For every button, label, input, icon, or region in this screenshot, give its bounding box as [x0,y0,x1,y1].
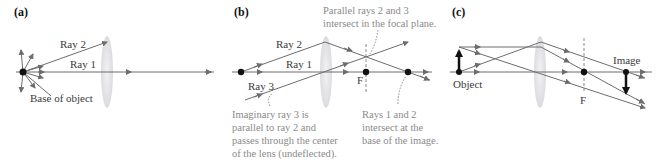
panel-a: (a) Ray 2 Ray 1 Base of object [14,5,214,108]
panel-c: (c) Object Image F [450,5,652,108]
ray-3-label: Ray 3 [248,80,274,92]
panel-b: (b) Ray 2 Ray 1 Ray 3 F Parallel rays 2 … [232,5,438,160]
focal-point-label: F [580,94,586,106]
thin-lens-ray-diagram: (a) Ray 2 Ray 1 Base of object (b) [0,0,662,160]
ray-1-label: Ray 1 [286,58,312,70]
note-imaginary-ray-3: Imaginary ray 3 is parallel to ray 2 and… [232,109,340,160]
focal-point [581,69,587,75]
note-focal-plane: Parallel rays 2 and 3 intersect in the f… [323,5,436,29]
ray-2-label: Ray 2 [276,38,302,50]
focal-point [363,69,369,75]
note-rays-intersect: Rays 1 and 2 intersect at the base of th… [362,109,438,146]
object-label: Object [453,78,482,90]
base-of-object-label: Base of object [30,92,93,104]
object-base-point [20,69,27,76]
ray-2 [241,42,430,80]
panel-a-label: (a) [14,5,28,19]
image-base-point [405,69,411,75]
ray-1-label: Ray 1 [70,58,96,70]
image-label: Image [613,54,641,66]
focal-point-label: F [357,74,363,86]
panel-c-label: (c) [452,5,465,19]
panel-b-label: (b) [234,5,249,19]
object-base-point [238,69,244,75]
ray-2-label: Ray 2 [60,38,86,50]
